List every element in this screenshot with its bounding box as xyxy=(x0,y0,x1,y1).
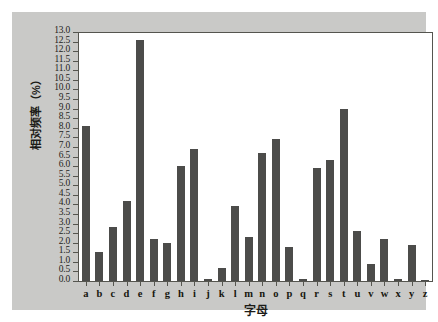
x-axis-tick-mark xyxy=(249,282,250,286)
x-axis-tick-label: w xyxy=(377,288,391,299)
y-axis-tick-label: 2.0 xyxy=(59,236,70,246)
bar-chart-figure: 0.00.51.01.52.02.53.03.54.04.55.05.56.06… xyxy=(0,0,438,322)
y-axis-tick-mark xyxy=(73,80,78,81)
y-axis-tick-mark xyxy=(73,195,78,196)
y-axis-tick-mark xyxy=(73,99,78,100)
y-axis-tick-mark xyxy=(73,157,78,158)
bar xyxy=(218,268,226,281)
x-axis-tick-mark xyxy=(194,282,195,286)
x-axis-tick-label: p xyxy=(282,288,296,299)
y-axis-tick-label: 6.5 xyxy=(59,150,70,160)
x-axis-tick-mark xyxy=(86,282,87,286)
x-axis-tick-label: i xyxy=(187,288,201,299)
y-axis-tick-label: 3.0 xyxy=(59,217,70,227)
x-axis-tick-mark xyxy=(140,282,141,286)
y-axis-tick-mark xyxy=(73,214,78,215)
y-axis-tick-label: 9.0 xyxy=(59,102,70,112)
bar xyxy=(163,243,171,281)
y-axis-tick-mark xyxy=(73,118,78,119)
bar xyxy=(231,206,239,281)
x-axis-tick-mark xyxy=(384,282,385,286)
x-axis-tick-mark xyxy=(208,282,209,286)
x-axis-tick-mark xyxy=(235,282,236,286)
y-axis-title: 相对频率（%） xyxy=(27,27,43,197)
x-axis-tick-label: l xyxy=(228,288,242,299)
x-axis-tick-mark xyxy=(344,282,345,286)
y-axis-tick-label: 12.0 xyxy=(54,44,70,54)
x-axis-tick-mark xyxy=(289,282,290,286)
bar xyxy=(394,279,402,281)
x-axis-tick-label: o xyxy=(269,288,283,299)
x-axis-tick-label: n xyxy=(255,288,269,299)
bar xyxy=(299,279,307,281)
y-axis-tick-label: 13.0 xyxy=(54,25,70,35)
x-axis-tick-mark xyxy=(99,282,100,286)
bar xyxy=(380,239,388,281)
y-axis-tick-mark xyxy=(73,51,78,52)
bar xyxy=(123,201,131,281)
y-axis-tick-label: 0.5 xyxy=(59,264,70,274)
x-axis-tick-label: x xyxy=(391,288,405,299)
y-axis-tick-label: 12.5 xyxy=(54,35,70,45)
y-axis-tick-mark xyxy=(73,185,78,186)
y-axis-tick-mark xyxy=(73,147,78,148)
y-axis-tick-mark xyxy=(73,32,78,33)
x-axis-tick-mark xyxy=(412,282,413,286)
x-axis-tick-label: r xyxy=(310,288,324,299)
y-axis-tick-label: 6.0 xyxy=(59,159,70,169)
bar xyxy=(313,168,321,281)
x-axis-tick-mark xyxy=(222,282,223,286)
bar-series xyxy=(79,32,432,281)
x-axis-tick-label: s xyxy=(323,288,337,299)
bar xyxy=(190,149,198,281)
bar xyxy=(245,237,253,281)
x-axis-tick-label: j xyxy=(201,288,215,299)
y-axis-tick-label: 4.5 xyxy=(59,188,70,198)
x-axis-tick-mark xyxy=(113,282,114,286)
x-axis-tick-label: g xyxy=(160,288,174,299)
y-axis-tick-label: 4.0 xyxy=(59,197,70,207)
y-axis-tick-mark xyxy=(73,128,78,129)
bar xyxy=(109,227,117,281)
bar xyxy=(136,40,144,281)
chart-panel: 0.00.51.01.52.02.53.03.54.04.55.05.56.06… xyxy=(12,12,426,310)
bar xyxy=(285,247,293,281)
y-axis-tick-label: 1.5 xyxy=(59,245,70,255)
y-axis-tick-label: 2.5 xyxy=(59,226,70,236)
bar xyxy=(408,245,416,281)
x-axis-tick-mark xyxy=(425,282,426,286)
bar xyxy=(421,280,429,281)
y-axis-tick-mark xyxy=(73,252,78,253)
x-axis-tick-label: a xyxy=(79,288,93,299)
bar xyxy=(326,160,334,281)
y-axis-tick-label: 5.5 xyxy=(59,169,70,179)
y-axis-tick-label: 7.5 xyxy=(59,130,70,140)
x-axis-tick-label: f xyxy=(147,288,161,299)
y-axis-tick-mark xyxy=(73,262,78,263)
y-axis-tick-label: 8.0 xyxy=(59,121,70,131)
y-axis-tick-mark xyxy=(73,224,78,225)
y-axis-tick-label: 11.5 xyxy=(55,54,70,64)
x-axis-tick-mark xyxy=(262,282,263,286)
x-axis-tick-label: z xyxy=(418,288,432,299)
x-axis-tick-label: q xyxy=(296,288,310,299)
bar xyxy=(204,279,212,281)
y-axis-tick-label: 7.0 xyxy=(59,140,70,150)
y-axis-tick-label: 1.0 xyxy=(59,255,70,265)
x-axis-tick-mark xyxy=(154,282,155,286)
x-axis-tick-label: e xyxy=(133,288,147,299)
x-axis-tick-label: m xyxy=(242,288,256,299)
y-axis-tick-mark xyxy=(73,243,78,244)
y-axis: 0.00.51.01.52.02.53.03.54.04.55.05.56.06… xyxy=(12,32,78,282)
y-axis-tick-mark xyxy=(73,233,78,234)
x-axis-tick-label: u xyxy=(350,288,364,299)
bar xyxy=(82,126,90,281)
x-axis-tick-mark xyxy=(317,282,318,286)
x-axis-tick-label: y xyxy=(405,288,419,299)
bar xyxy=(258,153,266,281)
y-axis-tick-label: 0.0 xyxy=(59,274,70,284)
y-axis-tick-mark xyxy=(73,204,78,205)
bar xyxy=(95,252,103,281)
x-axis-tick-mark xyxy=(357,282,358,286)
x-axis-tick-mark xyxy=(167,282,168,286)
